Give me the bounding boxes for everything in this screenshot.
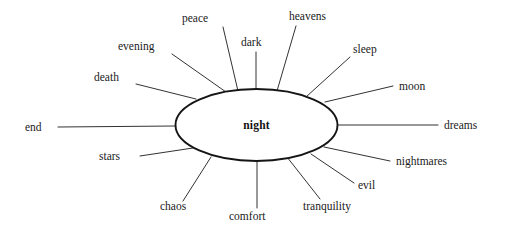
spoke-line-peace	[223, 27, 238, 91]
node-label-nightmares: nightmares	[396, 155, 448, 168]
spoke-line-nightmares	[324, 147, 390, 161]
node-label-stars: stars	[99, 150, 121, 162]
node-label-dark: dark	[241, 36, 262, 48]
spoke-line-heavens	[277, 26, 296, 91]
spoke-line-end	[58, 126, 176, 127]
node-label-death: death	[94, 71, 119, 83]
spoke-line-evening	[172, 54, 226, 92]
node-label-dreams: dreams	[444, 119, 478, 131]
node-label-peace: peace	[182, 12, 208, 25]
spoke-line-tranquility	[287, 157, 320, 199]
node-label-evening: evening	[118, 40, 155, 53]
spoke-line-sleep	[306, 57, 350, 97]
node-label-heavens: heavens	[289, 10, 327, 22]
semantic-web-canvas: night peacedarkheavenssleepeveningdeathm…	[0, 0, 515, 237]
spoke-line-stars	[140, 148, 193, 156]
node-label-end: end	[25, 121, 42, 133]
spoke-line-evil	[311, 154, 354, 183]
node-label-sleep: sleep	[353, 43, 377, 56]
spoke-line-chaos	[183, 157, 211, 201]
node-label-comfort: comfort	[229, 210, 266, 222]
word-association-diagram: night peacedarkheavenssleepeveningdeathm…	[0, 0, 515, 237]
spoke-line-moon	[325, 86, 393, 102]
node-label-chaos: chaos	[160, 200, 187, 212]
node-label-moon: moon	[399, 80, 425, 92]
center-node-label: night	[243, 119, 270, 132]
node-label-tranquility: tranquility	[303, 200, 351, 213]
node-label-evil: evil	[358, 179, 375, 191]
spoke-line-death	[136, 84, 196, 99]
